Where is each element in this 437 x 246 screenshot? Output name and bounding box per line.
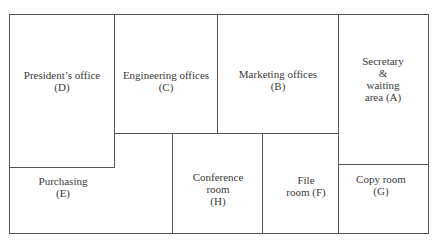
wall-copy-top xyxy=(338,164,429,165)
wall-marketing-left xyxy=(217,14,218,134)
room-label: Conference xyxy=(193,171,244,183)
room-label: Secretary xyxy=(362,55,404,67)
room-code: (B) xyxy=(239,80,317,92)
wall-bottom xyxy=(9,233,429,234)
wall-left xyxy=(9,14,10,234)
room-label: Purchasing xyxy=(39,175,88,187)
room-label: File xyxy=(286,174,325,186)
room-purchasing: Purchasing (E) xyxy=(39,175,88,199)
room-label: & xyxy=(362,67,404,79)
room-label: Marketing offices xyxy=(239,68,317,80)
wall-right xyxy=(428,14,429,234)
wall-president-bottom xyxy=(9,167,115,168)
room-marketing-offices: Marketing offices (B) xyxy=(239,68,317,92)
room-label: Copy room xyxy=(356,173,406,185)
room-label: room xyxy=(193,183,244,195)
room-code: (E) xyxy=(39,187,88,199)
room-copy: Copy room (G) xyxy=(356,173,406,197)
room-label: Engineering offices xyxy=(123,69,209,81)
room-code: (D) xyxy=(24,81,100,93)
room-label: President’s office xyxy=(24,69,100,81)
room-engineering-offices: Engineering offices (C) xyxy=(123,69,209,93)
room-conference: Conference room (H) xyxy=(193,171,244,207)
room-code: (G) xyxy=(356,185,406,197)
room-code: (H) xyxy=(193,195,244,207)
wall-conference-left xyxy=(172,133,173,234)
room-code: (C) xyxy=(123,81,209,93)
room-file: File room (F) xyxy=(286,174,325,198)
wall-top xyxy=(9,14,429,15)
room-secretary-waiting-area: Secretary & waiting area (A) xyxy=(362,55,404,103)
wall-middle-horizontal xyxy=(114,133,339,134)
room-president-office: President’s office (D) xyxy=(24,69,100,93)
wall-president-right xyxy=(114,14,115,168)
wall-secretary-left xyxy=(338,14,339,234)
floor-plan: President’s office (D) Engineering offic… xyxy=(0,0,437,246)
room-code: room (F) xyxy=(286,186,325,198)
room-code: area (A) xyxy=(362,91,404,103)
room-label: waiting xyxy=(362,79,404,91)
wall-file-left xyxy=(262,133,263,234)
